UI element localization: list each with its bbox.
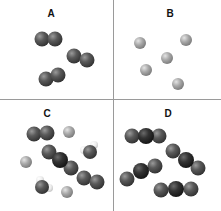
- light-atom: [140, 64, 152, 76]
- dark-atom: [51, 68, 66, 83]
- darker-atom: [52, 152, 68, 168]
- dark-atom: [77, 171, 92, 186]
- light-atom: [61, 186, 73, 198]
- dark-atom: [154, 183, 169, 198]
- atoms-layer: [0, 0, 221, 211]
- darker-atom: [178, 152, 194, 168]
- dark-atom: [166, 144, 181, 159]
- dark-atom: [35, 32, 50, 47]
- darker-atom: [133, 163, 149, 179]
- dark-atom: [40, 126, 55, 141]
- dark-atom: [80, 53, 95, 68]
- dark-atom: [48, 32, 63, 47]
- darker-atom: [138, 128, 154, 144]
- dark-atom: [67, 49, 82, 64]
- light-atom: [161, 52, 173, 64]
- light-atom: [172, 78, 184, 90]
- dark-atom: [184, 182, 199, 197]
- dark-atom: [90, 175, 105, 190]
- molecule-diagram: A B C D: [0, 0, 221, 211]
- dark-atom: [83, 145, 97, 159]
- dark-atom: [35, 180, 49, 194]
- light-atom: [134, 37, 146, 49]
- dark-atom: [27, 127, 42, 142]
- darker-atom: [168, 181, 184, 197]
- light-atom: [180, 34, 192, 46]
- light-atom: [63, 126, 75, 138]
- dark-atom: [148, 159, 163, 174]
- dark-atom: [120, 172, 135, 187]
- light-atom: [20, 156, 32, 168]
- dark-atom: [125, 129, 140, 144]
